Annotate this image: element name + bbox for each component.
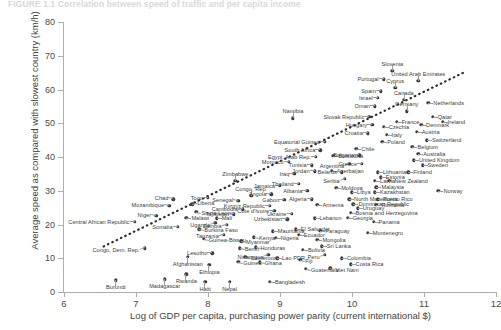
label-leader-line <box>322 246 327 247</box>
label-leader-line <box>351 264 356 265</box>
x-tick <box>496 292 497 297</box>
label-leader-line <box>320 231 325 232</box>
point-label: Viet Nam <box>335 267 358 273</box>
label-leader-line <box>423 165 428 166</box>
label-leader-line <box>342 258 347 259</box>
point-label: Israel <box>359 95 373 101</box>
y-tick <box>58 56 64 57</box>
point-label: France <box>402 119 420 125</box>
label-leader-line <box>299 235 304 236</box>
label-leader-line <box>418 154 423 155</box>
label-leader-line <box>389 181 394 182</box>
label-leader-line <box>203 197 208 198</box>
label-leader-line <box>364 116 369 117</box>
label-leader-line <box>357 163 362 164</box>
label-leader-line <box>353 204 358 205</box>
point-label: Hungary <box>346 122 368 128</box>
label-leader-line <box>229 282 230 289</box>
x-tick <box>64 292 65 297</box>
label-leader-line <box>368 233 373 234</box>
label-leader-line <box>375 192 380 193</box>
point-label: Ghana <box>265 260 282 266</box>
label-leader-line <box>319 254 324 257</box>
label-leader-line <box>311 156 316 157</box>
point-label: Gabon <box>262 197 279 203</box>
label-leader-line <box>186 218 191 219</box>
label-leader-line <box>273 231 278 232</box>
label-leader-line <box>287 213 292 214</box>
point-label: Italy <box>392 132 403 138</box>
point-label: Bolivia <box>308 247 325 253</box>
label-leader-line <box>164 279 165 286</box>
label-leader-line <box>428 103 433 104</box>
point-label: Finland <box>413 169 432 175</box>
label-leader-line <box>238 262 243 264</box>
point-label: Peru <box>308 254 320 260</box>
point-label: Sweden <box>428 162 449 168</box>
point-label: Honduras <box>261 245 286 251</box>
label-leader-line <box>378 172 383 173</box>
y-tick <box>58 225 64 226</box>
point-label: Armenia <box>322 202 343 208</box>
label-leader-line <box>239 248 244 250</box>
label-leader-line <box>203 239 208 241</box>
point-label: Austria <box>422 129 440 135</box>
label-leader-line <box>376 205 381 206</box>
label-leader-line <box>417 132 422 133</box>
y-tick-label: 30 <box>45 186 55 196</box>
label-leader-line <box>217 218 222 219</box>
point-label: Georgia <box>353 215 373 221</box>
y-tick-label: 10 <box>45 253 55 263</box>
point-label: Paraguay <box>325 228 349 234</box>
x-tick <box>280 292 281 297</box>
y-tick <box>58 191 64 192</box>
point-label: Romania <box>381 202 404 208</box>
label-leader-line <box>387 135 392 136</box>
label-leader-line <box>336 188 341 189</box>
point-label: Chad <box>155 195 169 201</box>
label-leader-line <box>277 258 282 259</box>
point-label: Chile <box>361 146 374 152</box>
x-tick <box>136 292 137 297</box>
point-label: Libya <box>357 189 371 195</box>
label-leader-line <box>408 172 413 173</box>
label-leader-line <box>303 250 308 251</box>
point-label: Thailand <box>272 181 294 187</box>
label-leader-line <box>265 205 270 206</box>
label-leader-line <box>384 127 389 128</box>
x-tick-label: 8 <box>205 298 210 309</box>
label-leader-line <box>317 240 322 241</box>
scatter-plot-area: 010203040506070806789101112BurundiCentra… <box>64 22 496 292</box>
x-tick <box>424 292 425 297</box>
x-axis-label: Log of GDP per capita, purchasing power … <box>60 310 501 321</box>
y-tick <box>58 90 64 91</box>
figure-title: FIGURE 1.1 Correlation between speed of … <box>8 0 488 10</box>
point-label: Panama <box>379 219 400 225</box>
point-label: Equatorial Guinea <box>274 139 320 145</box>
x-tick-label: 11 <box>419 298 429 309</box>
y-tick-label: 20 <box>45 220 55 230</box>
point-label: Belgium <box>417 144 438 150</box>
point-label: Poland <box>387 139 405 145</box>
label-leader-line <box>279 199 284 200</box>
point-label: Australia <box>423 151 445 157</box>
label-leader-line <box>300 260 305 262</box>
y-tick <box>58 22 64 23</box>
label-leader-line <box>356 149 361 150</box>
point-label: Montenegro <box>373 230 403 236</box>
point-label: Zambia <box>203 223 222 229</box>
point-label: Albania <box>283 188 302 194</box>
x-tick-label: 9 <box>277 298 282 309</box>
point-label: Kazakhstan <box>380 189 410 195</box>
label-leader-line <box>381 177 386 178</box>
point-label: Rwanda <box>176 278 197 284</box>
point-label: Kenya <box>259 235 275 241</box>
x-tick-label: 12 <box>491 298 501 309</box>
y-tick-label: 80 <box>45 17 55 27</box>
label-leader-line <box>266 193 271 194</box>
label-leader-line <box>115 280 116 287</box>
label-leader-line <box>375 181 380 182</box>
point-label: South Africa <box>285 147 316 153</box>
label-leader-line <box>306 269 311 271</box>
point-label: Belarus <box>318 169 337 175</box>
